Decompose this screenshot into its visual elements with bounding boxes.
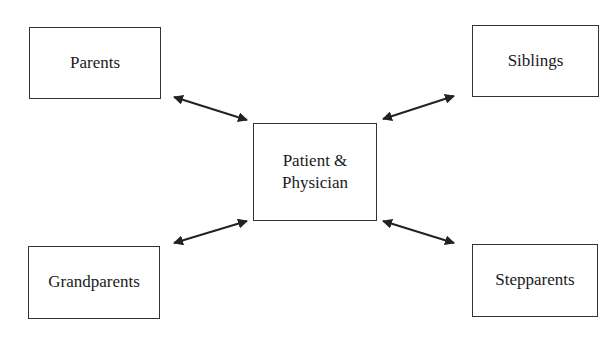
family-relationship-diagram: Parents Siblings Patient & Physician Gra… xyxy=(0,0,615,343)
arrow-parents-center xyxy=(174,97,247,120)
node-label: Patient & Physician xyxy=(282,150,348,194)
arrow-grandparents-center xyxy=(174,221,247,243)
node-center-patient-physician: Patient & Physician xyxy=(253,123,377,221)
node-label: Grandparents xyxy=(48,271,140,293)
node-label: Siblings xyxy=(508,50,564,72)
node-label: Parents xyxy=(70,52,120,74)
node-stepparents: Stepparents xyxy=(472,244,598,317)
node-parents: Parents xyxy=(29,27,161,99)
node-grandparents: Grandparents xyxy=(28,246,160,319)
node-label: Stepparents xyxy=(495,269,574,291)
arrow-stepparents-center xyxy=(383,221,454,243)
node-siblings: Siblings xyxy=(472,25,599,97)
arrow-siblings-center xyxy=(383,96,454,119)
